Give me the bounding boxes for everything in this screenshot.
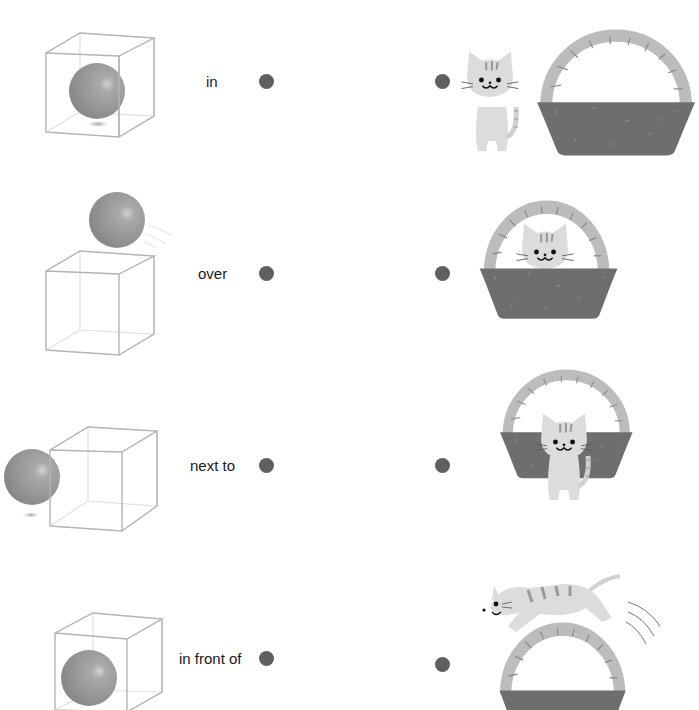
word-label: in front of xyxy=(179,650,242,667)
ball-next-to-cube-picture xyxy=(0,400,180,560)
right-match-dot[interactable] xyxy=(435,458,450,473)
cat-in-basket-picture xyxy=(480,200,680,340)
right-match-dot[interactable] xyxy=(435,657,450,672)
left-match-dot[interactable] xyxy=(259,458,274,473)
word-label: in xyxy=(206,73,218,90)
ball-over-cube-picture xyxy=(0,180,180,370)
left-match-dot[interactable] xyxy=(259,266,274,281)
ball-in-front-of-cube-picture xyxy=(0,580,180,710)
row-in-front-of: in front of xyxy=(0,580,655,710)
row-next-to: next to xyxy=(0,400,655,560)
row-in: in xyxy=(0,0,655,170)
cat-jumping-over-basket-picture xyxy=(470,570,690,700)
word-label: over xyxy=(198,265,227,282)
row-over: over xyxy=(0,180,655,370)
cat-next-to-basket-picture xyxy=(440,20,660,170)
ball-in-cube-picture xyxy=(0,0,180,170)
left-match-dot[interactable] xyxy=(259,74,274,89)
cat-in-front-of-basket-picture xyxy=(500,370,699,530)
word-label: next to xyxy=(190,457,235,474)
left-match-dot[interactable] xyxy=(259,651,274,666)
right-match-dot[interactable] xyxy=(435,266,450,281)
